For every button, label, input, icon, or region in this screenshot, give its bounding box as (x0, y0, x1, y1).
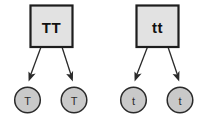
gamete-circle-left-2-label: T (71, 95, 78, 107)
genotype-box-left[interactable]: TT (31, 6, 73, 48)
arrow-head-icon (25, 71, 35, 83)
arrow-right-to-gamete-1 (131, 47, 147, 83)
genotype-box-right[interactable]: tt (137, 6, 179, 48)
genotype-box-left-label: TT (42, 19, 61, 36)
gamete-circle-right-1[interactable]: t (121, 87, 147, 113)
arrow-head-icon (66, 71, 76, 83)
gamete-circle-left-1[interactable]: T (15, 87, 41, 113)
arrow-head-icon (172, 71, 182, 83)
parent-group-left: TT T T (15, 6, 87, 113)
gamete-diagram: TT T T (0, 0, 212, 126)
diagram-canvas: TT T T (0, 0, 212, 126)
arrow-left-to-gamete-2 (62, 47, 76, 83)
gamete-circle-right-2-label: t (178, 95, 181, 107)
gamete-circle-right-2[interactable]: t (167, 87, 193, 113)
arrow-right-to-gamete-2 (168, 47, 183, 83)
gamete-circle-right-1-label: t (132, 95, 135, 107)
genotype-box-right-label: tt (152, 19, 163, 36)
parent-group-right: tt t t (121, 6, 193, 113)
arrow-left-to-gamete-1 (25, 47, 41, 83)
arrow-head-icon (131, 71, 141, 83)
gamete-circle-left-1-label: T (24, 95, 31, 107)
gamete-circle-left-2[interactable]: T (61, 87, 87, 113)
